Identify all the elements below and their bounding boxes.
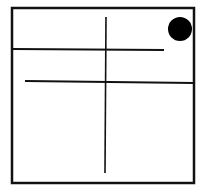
outer-frame <box>12 8 194 183</box>
lower-horizontal-line <box>25 81 194 83</box>
diagram-canvas <box>0 0 203 192</box>
upper-horizontal-line <box>13 49 164 50</box>
vertical-divider-line <box>105 17 106 173</box>
filled-dot-icon <box>168 17 192 41</box>
